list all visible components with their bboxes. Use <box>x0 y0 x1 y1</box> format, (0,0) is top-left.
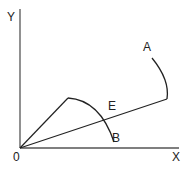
diagram-canvas: Y X 0 A E B <box>0 0 190 170</box>
origin-label: 0 <box>13 150 20 164</box>
radius-line-long <box>20 99 167 148</box>
x-axis-label: X <box>172 150 180 164</box>
point-a-label: A <box>143 40 151 54</box>
y-axis-label: Y <box>7 10 15 24</box>
point-b-label: B <box>112 131 120 145</box>
point-e-label: E <box>108 99 116 113</box>
arc-a <box>152 58 167 99</box>
